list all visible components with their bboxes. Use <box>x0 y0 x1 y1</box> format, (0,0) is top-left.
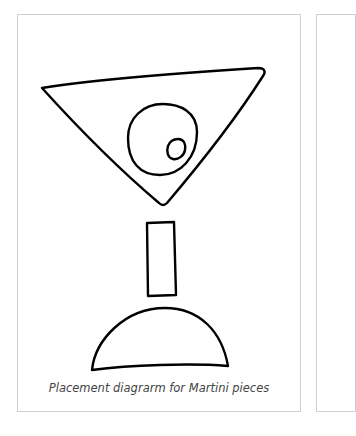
base-half-dome <box>92 308 228 370</box>
stem-rectangle <box>147 222 176 296</box>
olive-circle <box>128 104 197 175</box>
pimento-circle <box>167 139 185 159</box>
glass-bowl-triangle <box>42 68 265 205</box>
figure-caption: Placement diagrarm for Martini pieces <box>17 381 301 395</box>
